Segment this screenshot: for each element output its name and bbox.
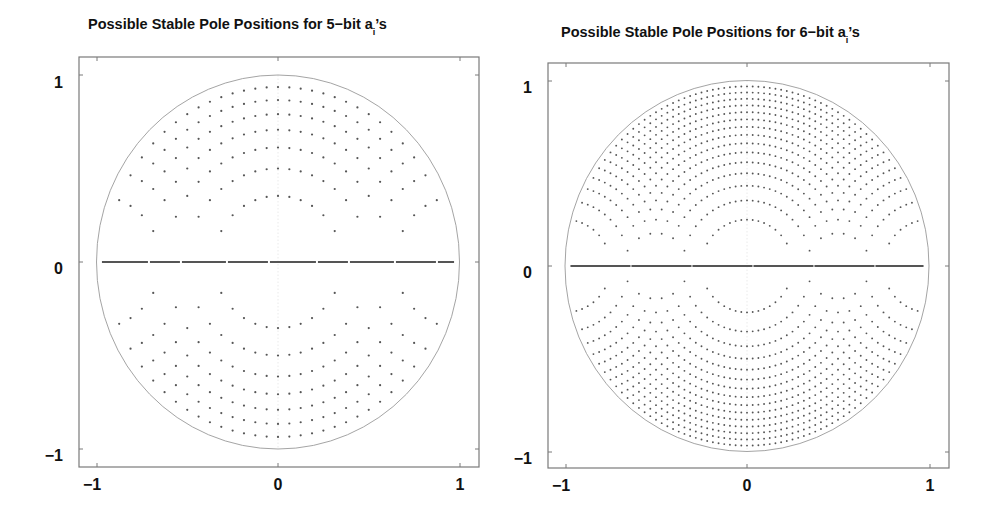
ytick-label: 0 xyxy=(54,260,63,277)
ytick-label: 1 xyxy=(54,74,63,91)
xtick-label: −1 xyxy=(83,476,101,493)
xtick-label: 0 xyxy=(274,476,283,493)
plot-title-5bit: Possible Stable Pole Positions for 5−bit… xyxy=(88,16,387,37)
ytick-label: 0 xyxy=(523,264,532,281)
ytick-label: −1 xyxy=(514,450,532,467)
ytick-label: −1 xyxy=(45,447,63,464)
xtick-label: −1 xyxy=(552,477,570,494)
xtick-label: 1 xyxy=(926,477,935,494)
xtick-label: 1 xyxy=(456,476,465,493)
ytick-label: 1 xyxy=(523,79,532,96)
plot-6bit: Possible Stable Pole Positions for 6−bit… xyxy=(514,24,949,494)
xtick-label: 0 xyxy=(743,477,752,494)
plot-5bit: Possible Stable Pole Positions for 5−bit… xyxy=(45,16,479,493)
plot-title-6bit: Possible Stable Pole Positions for 6−bit… xyxy=(561,24,860,45)
